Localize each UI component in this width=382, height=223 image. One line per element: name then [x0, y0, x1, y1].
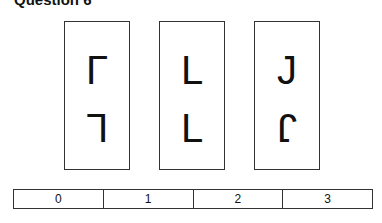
- answer-option-3[interactable]: 3: [283, 190, 372, 208]
- card-2: L L: [159, 21, 225, 170]
- answer-options: 0 1 2 3: [13, 189, 373, 209]
- question-title: Question 6: [14, 0, 92, 8]
- card-3-top-glyph: J: [255, 50, 319, 90]
- card-3-bottom-glyph: J: [255, 108, 319, 148]
- answer-option-2[interactable]: 2: [194, 190, 284, 208]
- card-3: J J: [254, 21, 320, 170]
- card-1-bottom-glyph: L: [65, 108, 129, 148]
- card-2-top-glyph: L: [160, 50, 224, 90]
- answer-option-0[interactable]: 0: [14, 190, 104, 208]
- card-2-bottom-glyph: L: [160, 108, 224, 148]
- answer-option-1[interactable]: 1: [104, 190, 194, 208]
- card-1: L L: [64, 21, 130, 170]
- card-1-top-glyph: L: [65, 50, 129, 90]
